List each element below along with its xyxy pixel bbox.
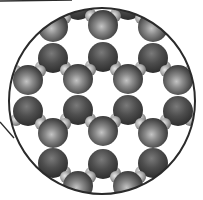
hydrogen-atom — [35, 12, 47, 24]
pointer-line — [0, 0, 72, 1]
lattice-spheres — [10, 0, 196, 200]
molecular-lattice-figure — [0, 0, 203, 200]
oxygen-atom — [38, 118, 68, 148]
oxygen-atom — [113, 64, 143, 94]
oxygen-atom — [88, 10, 118, 40]
oxygen-atom — [138, 118, 168, 148]
oxygen-atom — [63, 64, 93, 94]
hydrogen-atom — [159, 12, 171, 24]
oxygen-atom — [63, 171, 93, 200]
oxygen-atom — [13, 65, 43, 95]
oxygen-atom — [88, 116, 118, 146]
